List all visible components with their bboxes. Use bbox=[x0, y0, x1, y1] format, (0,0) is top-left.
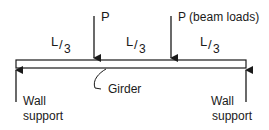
support-label-left-line2: support bbox=[23, 109, 64, 123]
span-num: L bbox=[126, 34, 133, 49]
span-den: 3 bbox=[64, 42, 71, 56]
span-den: 3 bbox=[139, 42, 146, 56]
span-slash: / bbox=[208, 37, 212, 52]
span-label-1: L / 3 bbox=[51, 34, 71, 56]
girder-leader-line bbox=[94, 69, 106, 89]
span-label-3: L / 3 bbox=[200, 34, 220, 56]
support-label-left-line1: Wall bbox=[23, 94, 46, 108]
girder-label: Girder bbox=[108, 82, 141, 96]
support-label-right-line1: Wall bbox=[211, 94, 234, 108]
support-label-right-line2: support bbox=[212, 109, 253, 123]
span-num: L bbox=[51, 34, 58, 49]
load-label-2: P (beam loads) bbox=[178, 10, 259, 24]
diagram-svg: P P (beam loads) L / 3 L / 3 L / 3 Girde… bbox=[0, 0, 269, 130]
span-slash: / bbox=[59, 37, 63, 52]
girder-beam bbox=[16, 60, 246, 68]
beam-diagram: P P (beam loads) L / 3 L / 3 L / 3 Girde… bbox=[0, 0, 269, 130]
span-slash: / bbox=[134, 37, 138, 52]
load-label-1: P bbox=[101, 9, 110, 24]
span-label-2: L / 3 bbox=[126, 34, 146, 56]
span-num: L bbox=[200, 34, 207, 49]
span-den: 3 bbox=[213, 42, 220, 56]
